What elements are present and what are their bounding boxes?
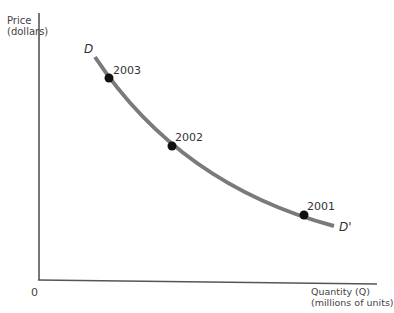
point-label-2001: 2001	[307, 200, 335, 213]
x-axis	[38, 280, 377, 284]
curve-start-label: D	[84, 42, 93, 56]
point-label-2002: 2002	[175, 131, 203, 144]
y-axis-label: Price (dollars)	[7, 15, 48, 37]
demand-curve	[95, 57, 334, 226]
x-axis-label-line1: Quantity (Q)	[311, 286, 394, 297]
y-axis-label-line2: (dollars)	[7, 26, 48, 37]
x-axis-label: Quantity (Q) (millions of units)	[311, 286, 394, 308]
y-axis-label-line1: Price	[7, 15, 48, 26]
curve-end-label: D'	[339, 220, 352, 234]
origin-label: 0	[31, 287, 38, 298]
x-axis-label-line2: (millions of units)	[311, 297, 394, 308]
point-label-2003: 2003	[113, 64, 141, 77]
